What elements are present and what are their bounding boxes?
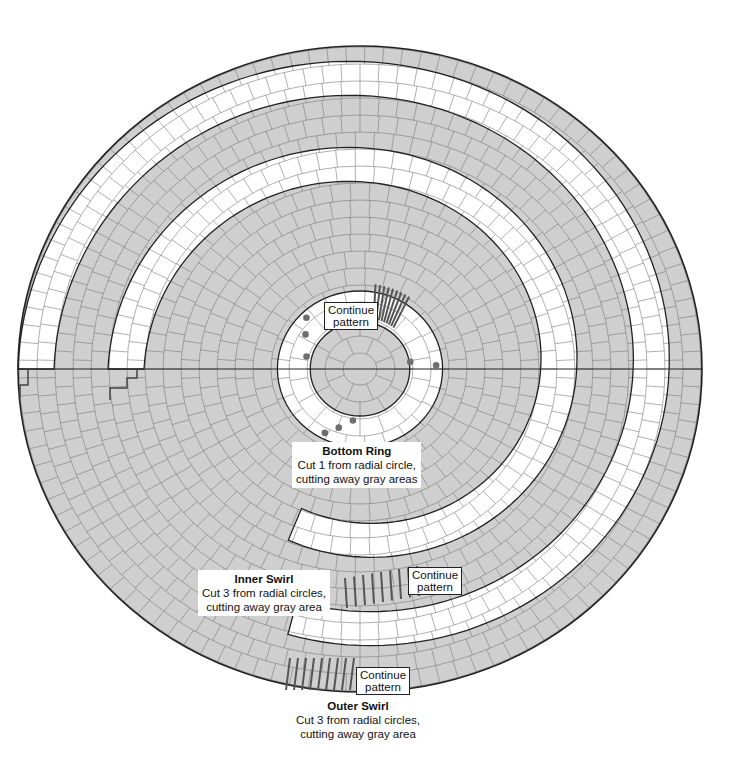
- label-line: Cut 3 from radial circles,: [202, 586, 326, 600]
- marker-dot: [303, 314, 310, 321]
- label-line: Cut 3 from radial circles,: [296, 713, 420, 727]
- center-continue-label: Continue pattern: [324, 302, 378, 330]
- marker-dot: [335, 424, 342, 431]
- label-line: cutting away gray areas: [296, 472, 417, 486]
- marker-dot: [433, 362, 440, 369]
- label-line: cutting away gray area: [202, 600, 326, 614]
- label-line: pattern: [328, 316, 374, 328]
- inner-swirl-label: Inner Swirl Cut 3 from radial circles, c…: [198, 570, 330, 616]
- marker-dot: [322, 430, 329, 437]
- label-line: pattern: [360, 681, 406, 693]
- label-line: pattern: [412, 581, 458, 593]
- paver-diagram: [0, 0, 732, 777]
- outer-continue-label: Continue pattern: [356, 667, 410, 695]
- label-title: Inner Swirl: [202, 572, 326, 586]
- label-line: Continue: [412, 569, 458, 581]
- marker-dot: [407, 359, 414, 366]
- marker-dot: [302, 331, 309, 338]
- label-line: cutting away gray area: [296, 727, 420, 741]
- label-title: Outer Swirl: [296, 699, 420, 713]
- inner-continue-label: Continue pattern: [408, 567, 462, 595]
- label-title: Bottom Ring: [296, 444, 417, 458]
- marker-dot: [350, 417, 357, 424]
- outer-swirl-label: Outer Swirl Cut 3 from radial circles, c…: [292, 697, 424, 743]
- label-line: Continue: [360, 669, 406, 681]
- label-line: Cut 1 from radial circle,: [296, 458, 417, 472]
- label-line: Continue: [328, 304, 374, 316]
- marker-dot: [303, 353, 310, 360]
- bottom-ring-label: Bottom Ring Cut 1 from radial circle, cu…: [292, 442, 421, 488]
